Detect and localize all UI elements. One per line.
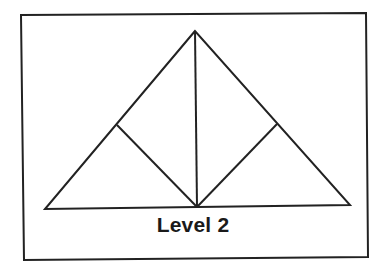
right-subdivision-line bbox=[197, 124, 277, 207]
level-caption: Level 2 bbox=[0, 213, 386, 237]
center-altitude-line bbox=[195, 31, 197, 207]
left-subdivision-line bbox=[117, 125, 197, 207]
